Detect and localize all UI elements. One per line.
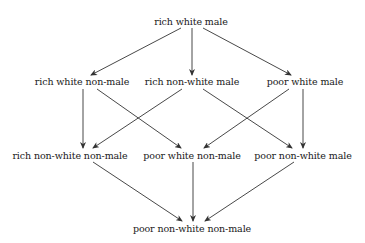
edge-n4-n7	[93, 162, 182, 221]
edge-n0-n1	[91, 28, 181, 75]
node-poor-non-white-male: poor non-white male	[254, 150, 351, 162]
node-rich-non-white-male: rich non-white male	[145, 76, 239, 88]
edge-n6-n7	[205, 162, 294, 221]
node-rich-white-male: rich white male	[154, 16, 228, 28]
node-poor-white-non-male: poor white non-male	[143, 150, 240, 162]
node-rich-non-white-non-male: rich non-white non-male	[12, 150, 127, 162]
node-rich-white-non-male: rich white non-male	[35, 76, 129, 88]
lattice-diagram: rich white male rich white non-male rich…	[0, 0, 365, 243]
node-poor-white-male: poor white male	[267, 76, 344, 88]
edge-layer	[0, 0, 365, 243]
edge-n0-n3	[203, 28, 291, 75]
node-poor-non-white-non-male: poor non-white non-male	[133, 223, 251, 235]
